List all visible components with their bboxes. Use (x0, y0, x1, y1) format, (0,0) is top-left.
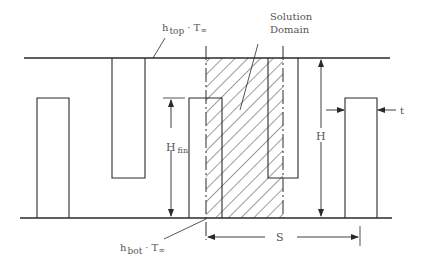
hbot-leader (164, 219, 206, 239)
fin-bottom-right (345, 98, 377, 218)
t-label: t (400, 105, 404, 116)
htop-leader (153, 38, 165, 58)
solution-domain-label-line2: Domain (270, 24, 310, 35)
htop-label: htop· T∞ (162, 22, 207, 36)
s-label: S (276, 231, 284, 244)
solution-domain-hatch (206, 58, 283, 218)
hbot-label: hbot· T∞ (120, 242, 165, 256)
fin-bottom-left (37, 98, 69, 218)
fin-array-diagram: H Hfin t S htop· T∞ Solution Domain hbot… (0, 0, 421, 270)
fin-top-left (112, 58, 145, 178)
h-label: H (316, 130, 326, 143)
hfin-label: Hfin (166, 141, 188, 155)
solution-domain-label-line1: Solution (270, 11, 313, 22)
